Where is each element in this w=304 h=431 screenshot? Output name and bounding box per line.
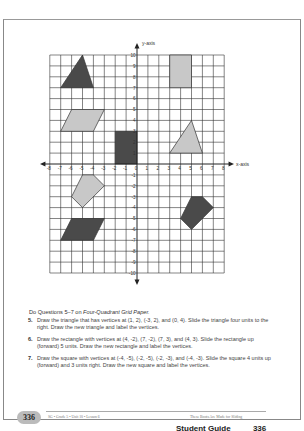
y-tick-label: 10	[130, 53, 136, 58]
footer-divider	[46, 411, 266, 412]
y-tick-label: 4	[133, 118, 136, 123]
y-tick-label: 1	[133, 151, 136, 156]
question-6: 6. Draw the rectangle with vertices at (…	[37, 336, 272, 351]
light-pentagon	[72, 175, 105, 208]
four-quadrant-grid: -8-7-6-5-4-3-2-101234567812345678910-1-2…	[4, 20, 302, 300]
y-axis-down-arrow-icon	[135, 280, 140, 285]
worksheet-page: -8-7-6-5-4-3-2-101234567812345678910-1-2…	[3, 19, 301, 420]
page-number-badge: 336	[17, 411, 41, 424]
question-7: 7. Draw the square with vertices at (-4,…	[37, 355, 272, 370]
y-tick-label: 5	[133, 107, 136, 112]
x-tick-label: -6	[69, 166, 74, 171]
question-number: 5.	[28, 317, 33, 324]
y-tick-label: 6	[133, 96, 136, 101]
x-axis-right-arrow-icon	[229, 162, 234, 167]
footer-course-info: SG • Grade 5 • Unit 10 • Lesson 6	[48, 415, 100, 419]
x-tick-label: -2	[112, 166, 117, 171]
x-tick-label: 0	[135, 166, 138, 171]
x-tick-label: 8	[222, 166, 225, 171]
x-tick-label: 1	[146, 166, 149, 171]
x-tick-label: 7	[211, 166, 214, 171]
question-5: 5. Draw the triangle that has vertices a…	[37, 317, 272, 332]
light-triangle	[170, 120, 203, 153]
footer-lesson-title: These Boots Are Made for Sliding	[190, 415, 242, 419]
y-tick-label: 9	[133, 64, 136, 69]
x-tick-label: 6	[200, 166, 203, 171]
question-text: Draw the rectangle with vertices at (4, …	[37, 336, 254, 349]
x-tick-label: -5	[79, 166, 84, 171]
x-tick-label: 2	[157, 166, 160, 171]
x-tick-label: -3	[101, 166, 106, 171]
x-tick-label: 5	[189, 166, 192, 171]
instructions-intro: Do Questions 5–7 on Four-Quadrant Grid P…	[29, 309, 150, 315]
question-number: 7.	[28, 355, 33, 362]
x-axis-left-arrow-icon	[40, 162, 45, 167]
x-tick-label: -7	[58, 166, 63, 171]
y-tick-label: -7	[131, 238, 136, 243]
x-tick-label: -4	[90, 166, 95, 171]
y-tick-label: 8	[133, 75, 136, 80]
y-tick-label: -9	[131, 260, 136, 265]
x-tick-label: 4	[178, 166, 181, 171]
x-axis-label: x-axis	[236, 161, 250, 167]
y-tick-label: -1	[131, 173, 136, 178]
x-tick-label: -8	[47, 166, 52, 171]
y-tick-label: 2	[133, 140, 136, 145]
y-tick-label: -10	[129, 271, 136, 276]
intro-italic: Four-Quadrant Grid Paper.	[83, 309, 150, 315]
y-tick-label: 7	[133, 86, 136, 91]
dark-triangle	[61, 55, 94, 88]
y-axis-label: y-axis	[142, 40, 156, 46]
light-rectangle	[170, 55, 192, 88]
y-tick-label: -4	[131, 205, 136, 210]
y-tick-label: -8	[131, 249, 136, 254]
dark-pentagon	[181, 197, 214, 230]
light-parallelogram	[61, 110, 105, 132]
dark-parallelogram	[61, 219, 105, 241]
y-tick-label: 3	[133, 129, 136, 134]
bottom-caption: Student Guide 336	[176, 424, 266, 431]
question-text: Draw the square with vertices at (-4, -5…	[37, 355, 271, 368]
question-text: Draw the triangle that has vertices at (…	[37, 317, 268, 330]
x-tick-label: -1	[123, 166, 128, 171]
intro-text: Do Questions 5–7 on	[29, 309, 83, 315]
y-tick-label: -6	[131, 227, 136, 232]
dark-rectangle	[115, 131, 137, 164]
y-axis-up-arrow-icon	[135, 43, 140, 48]
y-tick-label: -2	[131, 184, 136, 189]
y-tick-label: -5	[131, 216, 136, 221]
x-tick-label: 3	[167, 166, 170, 171]
question-number: 6.	[28, 336, 33, 343]
y-tick-label: -3	[131, 195, 136, 200]
